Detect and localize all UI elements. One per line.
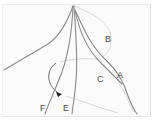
label-c: C — [97, 75, 104, 84]
left-branch-line — [4, 6, 73, 70]
label-e: E — [63, 104, 69, 113]
label-f: F — [40, 104, 46, 113]
faint-curve-b — [74, 6, 111, 58]
diagram-lines — [0, 0, 153, 122]
label-a: A — [117, 71, 123, 80]
faint-right — [118, 82, 133, 112]
branch-c-a-line — [75, 10, 122, 84]
curved-arrow-line — [49, 63, 58, 93]
label-b: B — [105, 35, 111, 44]
arrowhead-icon — [56, 92, 62, 97]
branch-a-outer-line — [76, 12, 137, 114]
